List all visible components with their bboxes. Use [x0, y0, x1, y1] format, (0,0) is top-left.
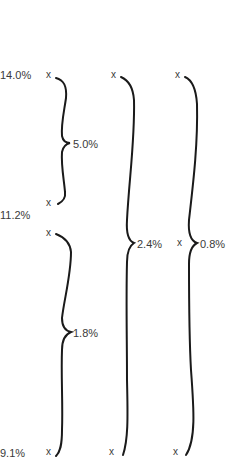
brace-col3: [185, 77, 197, 455]
brace-label-col2: 2.4%: [137, 238, 162, 250]
brace-col1-upper: [56, 78, 70, 204]
brace-layer: [0, 0, 232, 462]
brace-label-col1-lower: 1.8%: [73, 327, 98, 339]
brace-col2: [121, 77, 134, 455]
brace-label-col3: 0.8%: [200, 238, 225, 250]
brace-col1-lower: [56, 234, 71, 456]
brace-label-col1-upper: 5.0%: [73, 138, 98, 150]
